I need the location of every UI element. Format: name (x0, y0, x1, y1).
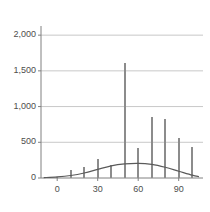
x-axis-tick-label: 90 (159, 185, 199, 194)
x-axis-tick-label: 30 (78, 185, 118, 194)
y-axis-tick-label: 0 (31, 173, 36, 182)
fitted-curve (44, 163, 199, 177)
chart-container: 05001,0001,5002,0000306090 (0, 0, 210, 212)
x-axis-tick-label: 0 (37, 185, 77, 194)
y-axis-tick-label: 1,000 (13, 102, 36, 111)
y-axis-tick-label: 500 (21, 137, 36, 146)
y-axis-tick-label: 1,500 (13, 66, 36, 75)
x-axis-tick-label: 60 (118, 185, 158, 194)
y-axis-tick-label: 2,000 (13, 30, 36, 39)
